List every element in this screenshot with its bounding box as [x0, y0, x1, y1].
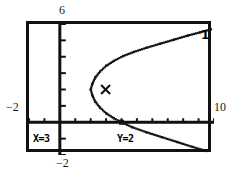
- axis-label-top: 6: [59, 4, 65, 16]
- calculator-screenshot: 6 −2 10 −2 1 X=3 Y=2: [0, 0, 233, 179]
- calculator-viewport[interactable]: 1 X=3 Y=2: [26, 21, 211, 152]
- curve-layer: [90, 28, 212, 152]
- axis-label-left: −2: [6, 101, 19, 113]
- axis-label-right: 10: [214, 101, 226, 113]
- curve-number-label: 1: [201, 29, 209, 41]
- trace-cursor: [101, 85, 110, 94]
- trace-x-readout: X=3: [33, 134, 50, 144]
- axis-label-bottom: −2: [56, 157, 69, 169]
- trace-y-readout: Y=2: [117, 134, 134, 144]
